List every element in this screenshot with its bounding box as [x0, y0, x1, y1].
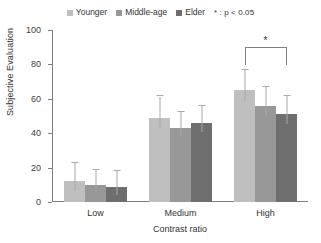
error-bar-cap: [283, 95, 290, 96]
legend-swatch-icon: [176, 10, 182, 16]
error-bar: [116, 171, 117, 195]
error-bar: [74, 163, 75, 191]
x-axis-category-label: High: [221, 208, 311, 218]
error-bar: [180, 112, 181, 136]
error-bar-cap: [262, 86, 269, 87]
error-bar: [286, 96, 287, 124]
bar-high-elder: [276, 114, 297, 202]
significance-note: * : p < 0.05: [214, 8, 254, 17]
error-bar-cap: [177, 111, 184, 112]
significance-asterisk: *: [264, 36, 268, 46]
legend-item-middle-age: Middle-age: [116, 8, 167, 17]
y-axis-tick-label: 100: [26, 25, 41, 35]
y-axis-tick-label: 60: [31, 94, 41, 104]
error-bar: [244, 70, 245, 101]
x-axis-title: Contrast ratio: [52, 224, 308, 234]
y-axis-tick-label: 20: [31, 163, 41, 173]
bar-slot: [106, 30, 127, 202]
legend-item-elder: Elder: [176, 8, 205, 17]
bar-slot: [85, 30, 106, 202]
error-bar-cap: [241, 69, 248, 70]
y-axis-tick: 100: [48, 30, 52, 31]
bar-medium-middle-age: [170, 128, 191, 202]
legend-item-younger: Younger: [67, 8, 107, 17]
bar-group-medium: Medium: [149, 30, 212, 202]
bar-medium-elder: [191, 123, 212, 202]
error-bar-cap: [156, 95, 163, 96]
x-axis-category-label: Low: [51, 208, 141, 218]
bar-slot: [191, 30, 212, 202]
bar-slot: [149, 30, 170, 202]
bar-high-middle-age: [255, 106, 276, 202]
bar-group-low: Low: [64, 30, 127, 202]
legend-label-elder: Elder: [185, 8, 205, 17]
legend-swatch-icon: [116, 10, 122, 16]
y-axis-title: Subjective Evaluation: [5, 28, 15, 116]
error-bar: [265, 87, 266, 116]
y-axis-tick: 0: [48, 202, 52, 203]
y-axis-tick-label: 0: [36, 197, 41, 207]
error-bar-cap: [92, 169, 99, 170]
plot-area: 020406080100 LowMediumHigh *: [52, 30, 308, 202]
legend-swatch-icon: [67, 10, 73, 16]
bar-medium-younger: [149, 118, 170, 202]
error-bar: [159, 97, 160, 130]
error-bar-cap: [71, 162, 78, 163]
error-bar-cap: [113, 170, 120, 171]
y-axis-tick-label: 80: [31, 59, 41, 69]
significance-bracket: [245, 47, 287, 65]
bar-slot: [170, 30, 191, 202]
chart-legend: Younger Middle-age Elder * : p < 0.05: [0, 8, 321, 17]
y-axis-tick: 40: [48, 133, 52, 134]
bar-slot: [64, 30, 85, 202]
legend-label-younger: Younger: [76, 8, 107, 17]
error-bar: [201, 106, 202, 132]
legend-label-middle-age: Middle-age: [125, 8, 167, 17]
bar-high-younger: [234, 90, 255, 202]
x-axis-category-label: Medium: [136, 208, 226, 218]
y-axis-tick: 60: [48, 99, 52, 100]
subjective-evaluation-bar-chart: Younger Middle-age Elder * : p < 0.05 Su…: [0, 0, 321, 243]
error-bar-cap: [198, 105, 205, 106]
y-axis-tick: 20: [48, 168, 52, 169]
y-axis-tick-label: 40: [31, 128, 41, 138]
error-bar: [95, 170, 96, 192]
y-axis-tick: 80: [48, 64, 52, 65]
